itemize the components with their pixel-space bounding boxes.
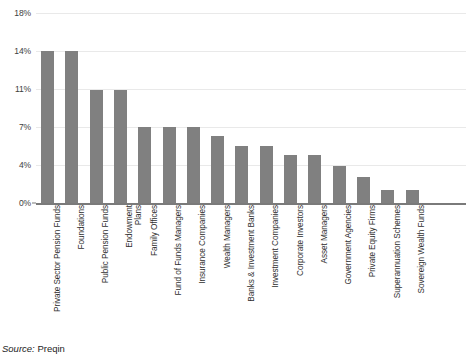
x-axis-category-label: Asset Managers	[320, 205, 333, 331]
bars-container	[36, 8, 466, 203]
bar-chart-figure: 0%4%7%11%14%18% Private Sector Pension F…	[0, 0, 470, 361]
y-axis-tick-label: 4%	[0, 160, 31, 170]
x-axis-category-label: Superannuation Schemes	[393, 205, 406, 331]
bar	[90, 90, 103, 203]
x-axis-category-label: Wealth Managers	[223, 205, 236, 331]
source-note: Source: Preqin	[2, 343, 65, 354]
x-axis-category-label: Government Agencies	[344, 205, 357, 331]
y-axis-tick-label: 18%	[0, 8, 31, 18]
bar	[357, 177, 370, 203]
x-axis-category-label: Private Sector Pension Funds	[53, 205, 66, 331]
y-axis-tick-label: 11%	[0, 84, 31, 94]
bar	[41, 51, 54, 203]
bar	[138, 127, 151, 203]
bar	[260, 146, 273, 203]
x-axis-category-label: Corporate Investors	[296, 205, 309, 331]
x-axis-category-label: Private Equity Firms	[368, 205, 381, 331]
bar	[65, 51, 78, 203]
bar	[308, 155, 321, 203]
bar	[187, 127, 200, 203]
y-axis-tick-label: 7%	[0, 122, 31, 132]
y-axis-tick-label: 0%	[0, 198, 31, 208]
x-axis-category-label: Insurance Companies	[198, 205, 211, 331]
x-axis-category-label: Family Offices	[150, 205, 163, 331]
bar	[406, 190, 419, 203]
x-axis-category-label: Sovereign Wealth Funds	[417, 205, 430, 331]
bar	[284, 155, 297, 203]
x-axis-category-label: Public Pension Funds	[101, 205, 114, 331]
x-axis-category-labels: Private Sector Pension FundsFoundationsP…	[36, 205, 466, 333]
bar	[235, 146, 248, 203]
x-axis-category-label: Banks & Investment Banks	[247, 205, 260, 331]
x-axis-category-label: Foundations	[77, 205, 90, 331]
y-axis-tick-label: 14%	[0, 46, 31, 56]
source-value: Preqin	[37, 343, 64, 354]
x-axis-category-label: Endowment Plans	[125, 205, 138, 331]
bar	[333, 166, 346, 203]
x-axis-category-label: Investment Companies	[271, 205, 284, 331]
bar	[114, 90, 127, 203]
bar	[163, 127, 176, 203]
bar	[211, 136, 224, 203]
source-prefix: Source:	[2, 343, 35, 354]
bar	[381, 190, 394, 203]
x-axis-category-label: Fund of Funds Managers	[174, 205, 187, 331]
